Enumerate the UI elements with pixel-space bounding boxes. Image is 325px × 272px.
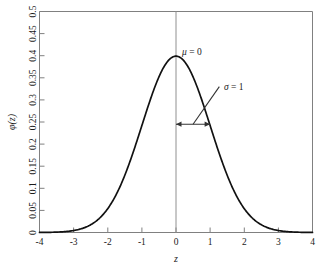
mean-annotation: μ = 0: [181, 47, 202, 57]
x-tick-label-3: -1: [138, 237, 146, 247]
chart-canvas: 0 0.05 0.1 0.15 0.2 0.25 0.3 0.35 0.4 0.…: [0, 0, 325, 272]
y-tick-label-5: 0.25: [28, 113, 38, 130]
x-tick-label-5: 1: [208, 237, 213, 247]
x-axis-tick-labels: -4 -3 -2 -1 0 1 2 3 4: [36, 237, 316, 247]
y-axis-ticks: [40, 12, 45, 233]
x-tick-label-6: 2: [242, 237, 247, 247]
y-tick-label-3: 0.15: [28, 158, 38, 175]
normal-distribution-chart: 0 0.05 0.1 0.15 0.2 0.25 0.3 0.35 0.4 0.…: [0, 0, 325, 272]
y-tick-label-7: 0.35: [28, 69, 38, 86]
y-tick-label-6: 0.3: [28, 94, 38, 106]
y-tick-label-2: 0.1: [28, 182, 38, 194]
sigma-leader-line: [193, 87, 219, 125]
x-tick-label-2: -2: [104, 237, 112, 247]
y-tick-label-4: 0.2: [28, 138, 38, 150]
mu-value: = 0: [187, 47, 202, 57]
x-tick-label-4: 0: [174, 237, 179, 247]
sigma-arrow-head-left: [176, 122, 182, 127]
y-axis-tick-labels: 0 0.05 0.1 0.15 0.2 0.25 0.3 0.35 0.4 0.…: [28, 5, 38, 235]
x-tick-label-0: -4: [36, 237, 44, 247]
y-axis-title: φ(z): [6, 113, 18, 130]
sigma-annotation: σ = 1: [224, 82, 244, 92]
x-tick-label-1: -3: [70, 237, 78, 247]
y-tick-label-10: 0.5: [28, 5, 38, 17]
y-tick-label-9: 0.45: [28, 25, 38, 42]
y-tick-label-0: 0: [28, 230, 38, 235]
x-axis-title: z: [173, 253, 178, 264]
x-tick-label-8: 4: [310, 237, 315, 247]
sigma-value: = 1: [229, 82, 244, 92]
y-tick-label-8: 0.4: [28, 50, 38, 62]
y-tick-label-1: 0.05: [28, 202, 38, 219]
x-tick-label-7: 3: [276, 237, 281, 247]
